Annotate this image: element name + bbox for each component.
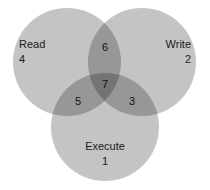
set-label-read-value: 4 [19,53,45,66]
region-value-read-execute: 5 [68,96,88,107]
set-label-read-name: Read [19,38,45,51]
set-label-write: Write 2 [166,38,191,66]
venn-label-layer: Read 4 Write 2 Execute 1 6 5 3 7 [0,0,210,190]
region-value-write-execute: 3 [122,96,142,107]
set-label-write-value: 2 [166,53,191,66]
set-label-execute-name: Execute [0,140,210,153]
set-label-read: Read 4 [19,38,45,66]
region-value-read-write-execute: 7 [95,79,115,90]
set-label-write-name: Write [166,38,191,51]
region-value-read-write: 6 [95,42,115,53]
set-label-execute: Execute 1 [0,140,210,168]
venn-diagram: Read 4 Write 2 Execute 1 6 5 3 7 [0,0,210,190]
set-label-execute-value: 1 [0,155,210,168]
